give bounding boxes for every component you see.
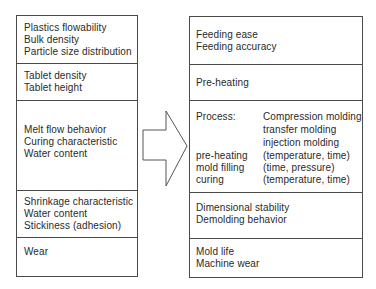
process-step: pre-heating xyxy=(196,150,248,162)
right-text: Pre-heating xyxy=(196,77,249,89)
right-text: Machine wear xyxy=(196,258,259,270)
process-label: Process: xyxy=(196,111,236,123)
right-section-preheating: Pre-heating xyxy=(190,65,362,101)
right-text: Feeding accuracy xyxy=(196,41,277,53)
process-step-params: (temperature, time) xyxy=(263,150,350,162)
right-text: Feeding ease xyxy=(196,29,258,41)
process-step: mold filling xyxy=(196,162,244,174)
process-method: transfer molding xyxy=(263,124,336,136)
right-section-mold-life: Mold life Machine wear xyxy=(190,239,362,277)
process-step-params: (time, pressure) xyxy=(263,162,335,174)
right-section-feeding: Feeding ease Feeding accuracy xyxy=(190,17,362,65)
right-processing-panel: Feeding ease Feeding accuracy Pre-heatin… xyxy=(189,16,363,278)
right-section-dimensional: Dimensional stability Demolding behavior xyxy=(190,193,362,239)
process-method: Compression molding xyxy=(263,111,362,123)
right-text: Mold life xyxy=(196,246,234,258)
right-text: Demolding behavior xyxy=(196,214,287,226)
right-section-process: Process: Compression molding transfer mo… xyxy=(190,101,362,193)
process-step-params: (temperature, time) xyxy=(263,174,350,186)
right-text: Dimensional stability xyxy=(196,202,289,214)
process-step: curing xyxy=(196,174,224,186)
process-method: injection molding xyxy=(263,137,339,149)
